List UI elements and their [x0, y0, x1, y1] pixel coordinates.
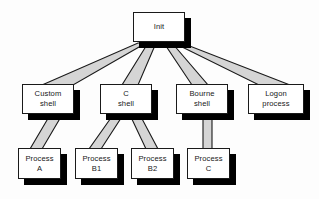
node-label-init: Init [154, 22, 165, 32]
edge-init-to-logon-process [174, 43, 290, 85]
edge-c-shell-to-process-b2 [130, 115, 158, 149]
node-label-bourne-shell: Bourne shell [189, 89, 214, 108]
node-bourne-shell[interactable]: Bourne shell [176, 84, 228, 114]
edge-init-to-c-shell [122, 43, 156, 85]
process-hierarchy-diagram: Init Custom shell C shell Bourne shell L… [0, 0, 319, 199]
node-process-a[interactable]: Process A [18, 148, 61, 179]
node-process-b1[interactable]: Process B1 [75, 148, 118, 179]
node-process-b2[interactable]: Process B2 [131, 148, 174, 179]
node-label-process-b2: Process B2 [138, 154, 166, 173]
node-label-c-shell: C shell [118, 89, 134, 108]
edge-c-shell-to-process-b1 [89, 115, 123, 149]
node-label-logon-process: Logon process [262, 89, 289, 108]
node-init[interactable]: Init [133, 12, 185, 42]
node-label-process-c: Process C [194, 154, 222, 173]
node-process-c[interactable]: Process C [187, 148, 230, 179]
edge-custom-shell-to-process-a [30, 115, 62, 149]
node-logon-process[interactable]: Logon process [248, 84, 304, 114]
edge-init-to-bourne-shell [164, 43, 208, 85]
node-c-shell[interactable]: C shell [100, 84, 152, 114]
node-label-custom-shell: Custom shell [35, 89, 62, 108]
node-custom-shell[interactable]: Custom shell [22, 84, 74, 114]
node-label-process-b1: Process B1 [82, 154, 110, 173]
edge-bourne-shell-to-process-c [203, 115, 212, 149]
node-label-process-a: Process A [25, 154, 53, 173]
edge-init-to-custom-shell [42, 43, 146, 85]
